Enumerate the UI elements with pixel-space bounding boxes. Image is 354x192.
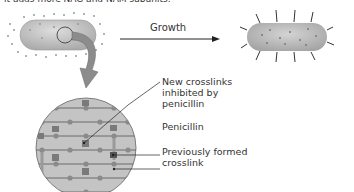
label-line: Previously formed xyxy=(162,146,247,157)
label-new-crosslinks: New crosslinks inhibited by penicillin xyxy=(162,76,232,109)
magnified-cell-wall xyxy=(30,82,160,192)
growth-arrow xyxy=(120,36,220,42)
label-previous-crosslink: Previously formed crosslink xyxy=(162,146,247,168)
label-line: inhibited by xyxy=(162,87,232,98)
bacterium-after xyxy=(240,10,334,62)
label-line: crosslink xyxy=(162,157,247,168)
growth-label: Growth xyxy=(150,22,186,33)
label-line: New crosslinks xyxy=(162,76,232,87)
label-penicillin: Penicillin xyxy=(162,121,204,132)
label-line: penicillin xyxy=(162,98,232,109)
